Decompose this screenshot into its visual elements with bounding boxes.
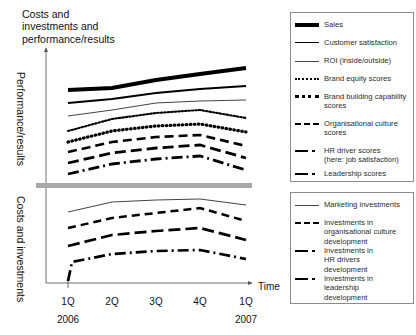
legend-item[interactable]: Marketing investments [295, 199, 400, 211]
legend-item[interactable]: Investments in HR drivers development [295, 245, 373, 274]
legend-item-label: ROI (inside/outside) [324, 55, 391, 65]
legend-swatch-icon [295, 217, 319, 229]
legend-item-label: Brand equity scores [324, 73, 391, 83]
x-tick-1q-2007: 1Q [231, 296, 261, 307]
legend-swatch-icon [295, 91, 319, 103]
legend-swatch-icon [295, 245, 319, 257]
legend-item[interactable]: Brand building capability scores [295, 91, 406, 111]
x-tick-1q-2006: 1Q [53, 296, 83, 307]
legend-swatch-icon [295, 37, 319, 49]
series-sales [68, 68, 246, 90]
series-marketing-investments [68, 199, 246, 212]
lower-panel-series [68, 199, 246, 281]
series-investments-leadership [68, 250, 246, 281]
legend-item[interactable]: Investments in leadership development [295, 273, 373, 302]
legend-item-label: Investments in leadership development [324, 273, 373, 302]
legend-swatch-icon [295, 145, 319, 157]
panel-divider [36, 183, 252, 188]
legend-swatch-icon [295, 19, 319, 31]
upper-panel-series [68, 68, 246, 174]
legend-item-label: HR driver scores (here: job satisfaction… [324, 145, 399, 165]
legend-item[interactable]: ROI (inside/outside) [295, 55, 391, 67]
x-tick-2q-2006: 2Q [97, 296, 127, 307]
x-tick-4q-2006: 4Q [185, 296, 215, 307]
legend-item-label: Sales [324, 19, 343, 29]
legend-performance: SalesCustomer satisfactionROI (inside/ou… [290, 12, 414, 182]
legend-item-label: Brand building capability scores [324, 91, 406, 111]
legend-item[interactable]: HR driver scores (here: job satisfaction… [295, 145, 399, 165]
x-axis-label-time: Time [258, 281, 280, 292]
series-investments-organisational-culture [68, 208, 246, 228]
legend-costs: Marketing investmentsInvestments in orga… [290, 192, 414, 304]
legend-swatch-icon [295, 118, 319, 130]
x-year-2006: 2006 [49, 314, 87, 325]
legend-item-label: Marketing investments [324, 199, 400, 209]
legend-swatch-icon [295, 168, 319, 180]
legend-item-label: Customer satisfaction [324, 37, 397, 47]
y-axis-label-performance: Performance/results [15, 72, 27, 166]
legend-item[interactable]: Brand equity scores [295, 73, 391, 85]
legend-swatch-icon [295, 55, 319, 67]
legend-swatch-icon [295, 73, 319, 85]
x-year-2007: 2007 [227, 314, 265, 325]
series-brand-building-capability-scores [68, 124, 246, 142]
legend-swatch-icon [295, 199, 319, 211]
legend-item-label: Investments in HR drivers development [324, 245, 373, 274]
legend-swatch-icon [295, 273, 319, 285]
legend-item-label: Leadership scores [324, 168, 386, 178]
legend-item-label: Organisational culture scores [324, 118, 398, 138]
legend-item[interactable]: Leadership scores [295, 168, 386, 180]
series-investments-hr-drivers [68, 228, 246, 246]
legend-item-label: Investments in organisational culture de… [324, 217, 396, 246]
y-axis-label-costs: Costs and investments [15, 196, 27, 302]
legend-item[interactable]: Organisational culture scores [295, 118, 398, 138]
legend-item[interactable]: Investments in organisational culture de… [295, 217, 396, 246]
legend-item[interactable]: Customer satisfaction [295, 37, 397, 49]
series-leadership-scores [68, 156, 246, 174]
legend-item[interactable]: Sales [295, 19, 343, 31]
x-tick-3q-2006: 3Q [141, 296, 171, 307]
